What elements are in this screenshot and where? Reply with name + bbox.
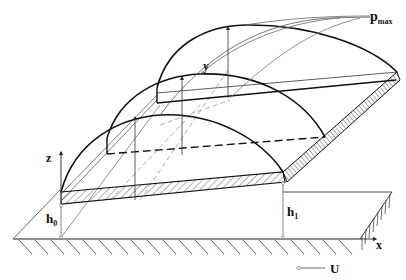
- velocity-label: U: [330, 261, 340, 276]
- x-axis-label: x: [376, 238, 382, 252]
- y-axis-label: y: [203, 59, 209, 73]
- z-axis-label: z: [46, 151, 52, 165]
- diagram-canvas: pmax y z x h0 h1 U: [0, 0, 406, 280]
